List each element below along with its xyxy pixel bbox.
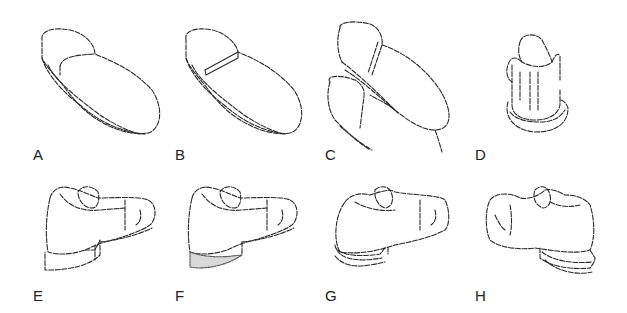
panel-g: G	[300, 150, 460, 310]
label-h: H	[475, 288, 486, 303]
panel-h: H	[450, 150, 610, 310]
panel-e: E	[0, 150, 160, 310]
panel-d: D	[450, 0, 610, 160]
label-f: F	[175, 288, 184, 303]
soles-c-drawing	[300, 0, 460, 160]
label-g: G	[325, 288, 337, 303]
shoe-e-drawing	[0, 150, 160, 310]
panel-c: C	[300, 0, 460, 160]
shoe-h-drawing	[450, 150, 610, 310]
label-e: E	[33, 288, 43, 303]
shoe-f-drawing	[142, 150, 302, 310]
sole-b-drawing	[142, 0, 302, 140]
sole-a-drawing	[0, 0, 160, 140]
panel-f: F	[142, 150, 302, 310]
panel-a: A	[0, 0, 160, 140]
panel-b: B	[142, 0, 302, 140]
shoe-g-drawing	[300, 150, 460, 310]
shoe-d-heel-view	[450, 0, 610, 160]
